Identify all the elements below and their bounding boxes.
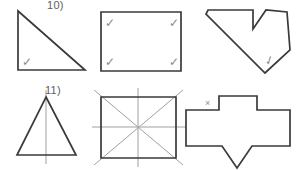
right-triangle: ✓ xyxy=(18,11,85,70)
check-mark: ✓ xyxy=(22,55,32,69)
cross-arrow-polygon-outline xyxy=(186,96,290,168)
check-mark: ✓ xyxy=(169,16,179,30)
rectangle: ✓✓✓✓ xyxy=(101,12,181,71)
x-mark: × xyxy=(205,98,210,108)
isosceles-triangle xyxy=(17,90,76,164)
worksheet-canvas: ✓✓✓✓✓✓× 10) 11) xyxy=(0,0,298,170)
cross-arrow-polygon: × xyxy=(186,96,290,168)
check-mark: ✓ xyxy=(262,52,276,69)
concave-arrow-polygon-outline xyxy=(206,10,290,73)
square-with-symmetry-lines xyxy=(92,88,186,167)
concave-arrow-polygon: ✓ xyxy=(206,10,290,73)
check-mark: ✓ xyxy=(105,55,115,69)
check-mark: ✓ xyxy=(169,55,179,69)
item-number-10: 10) xyxy=(47,0,64,11)
item-number-11: 11) xyxy=(45,84,61,96)
check-mark: ✓ xyxy=(105,16,115,30)
